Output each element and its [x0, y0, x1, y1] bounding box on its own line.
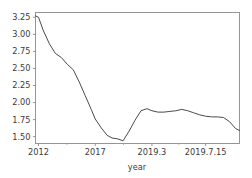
line-chart: 1.501.752.002.252.502.753.003.25 2012201… — [0, 0, 252, 178]
y-tick-label: 2.75 — [12, 46, 30, 56]
x-tick-label: 2012 — [28, 147, 49, 157]
chart-figure: 1.501.752.002.252.502.753.003.25 2012201… — [0, 0, 252, 178]
y-tick-label: 2.50 — [12, 63, 30, 73]
x-axis-title: year — [128, 162, 147, 172]
y-tick-label: 3.25 — [12, 12, 30, 22]
y-tick-label: 3.00 — [12, 29, 30, 39]
y-tick-label: 1.75 — [12, 115, 30, 125]
y-tick-label: 2.25 — [12, 80, 30, 90]
y-tick-label: 2.00 — [12, 97, 30, 107]
x-tick-label: 2017 — [85, 147, 106, 157]
y-tick-label: 1.50 — [12, 132, 30, 142]
x-tick-label: 2019.3 — [138, 147, 167, 157]
x-tick-label: 2019.7.15 — [185, 147, 227, 157]
